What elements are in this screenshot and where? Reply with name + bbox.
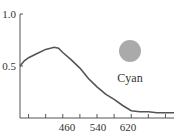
legend-label: Cyan [117,71,142,85]
x-ticks [29,114,166,118]
chart: 1.0 0.5 460 540 620 Cyan [0,0,175,134]
x-tick-label: 460 [59,121,76,133]
x-tick-label: 540 [90,121,107,133]
y-tick-label: 1.0 [2,8,16,20]
cyan-curve [20,47,174,113]
cyan-swatch-icon [119,40,141,62]
x-tick-label: 620 [120,121,137,133]
y-tick-label: 0.5 [2,60,16,72]
plot-frame [20,14,174,118]
